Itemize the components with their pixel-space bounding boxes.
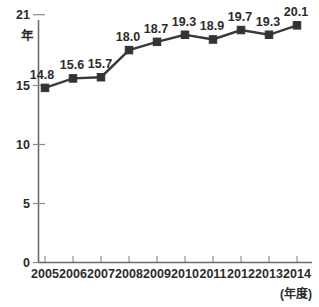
- data-point-marker: [69, 75, 77, 83]
- series-line: [45, 25, 297, 88]
- x-tick-label: 2010: [171, 267, 199, 281]
- data-point-label: 14.8: [30, 68, 54, 82]
- x-tick-label: 2009: [143, 267, 171, 281]
- x-tick-label: 2005: [31, 267, 59, 281]
- data-point-marker: [237, 26, 245, 34]
- x-tick-label: 2008: [115, 267, 143, 281]
- data-point-marker: [41, 84, 49, 92]
- x-tick-label: 2007: [87, 267, 115, 281]
- data-point-label: 18.9: [200, 19, 224, 33]
- x-tick-labels: 2005200620072008200920102011201220132014: [31, 267, 311, 281]
- y-tick-label: 0: [23, 256, 30, 270]
- data-point-label: 19.3: [256, 15, 280, 29]
- data-point-marker: [125, 46, 133, 54]
- data-point-label: 18.0: [116, 30, 140, 44]
- chart-canvas: 21151050 年 20052006200720082009201020112…: [0, 0, 319, 307]
- x-tick-label: 2013: [255, 267, 283, 281]
- y-tick-label: 21: [16, 8, 30, 22]
- line-chart: 21151050 年 20052006200720082009201020112…: [0, 0, 319, 307]
- data-point-label: 15.6: [60, 58, 84, 72]
- data-point-marker: [97, 73, 105, 81]
- series-markers: [41, 22, 301, 92]
- x-tick-label: 2011: [199, 267, 226, 281]
- y-tick-label: 5: [23, 197, 30, 211]
- data-point-marker: [209, 36, 217, 44]
- y-axis-unit-label: 年: [21, 28, 34, 43]
- x-tick-marks: [45, 256, 297, 262]
- data-point-label: 15.7: [88, 57, 112, 71]
- data-point-marker: [153, 38, 161, 46]
- y-tick-label: 15: [16, 79, 30, 93]
- series-point-labels: 14.815.615.718.018.719.318.919.719.320.1: [30, 5, 308, 82]
- x-axis-group: 2005200620072008200920102011201220132014…: [31, 256, 312, 301]
- series-group: 14.815.615.718.018.719.318.919.719.320.1: [30, 5, 308, 91]
- x-tick-label: 2014: [283, 267, 311, 281]
- data-point-marker: [181, 31, 189, 39]
- y-tick-label: 10: [16, 138, 30, 152]
- x-axis-caption: (年度): [280, 286, 312, 301]
- y-tick-labels: 21151050: [16, 8, 30, 270]
- y-axis-group: 21151050 年: [16, 8, 45, 270]
- data-point-label: 19.7: [228, 10, 252, 24]
- data-point-marker: [293, 22, 301, 30]
- data-point-label: 18.7: [144, 22, 168, 36]
- x-tick-label: 2012: [227, 267, 255, 281]
- data-point-label: 20.1: [284, 5, 308, 19]
- data-point-marker: [265, 31, 273, 39]
- x-tick-label: 2006: [59, 267, 87, 281]
- data-point-label: 19.3: [172, 15, 196, 29]
